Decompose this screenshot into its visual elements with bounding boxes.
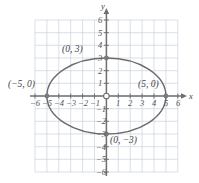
point-label-left: (−5, 0) (8, 80, 35, 90)
x-tick-label--3: −3 (66, 99, 76, 108)
y-tick-label-2: 2 (98, 67, 102, 76)
x-tick-label-4: 4 (152, 99, 156, 108)
y-tick-label--4: −4 (96, 143, 106, 152)
x-tick-label--6: −6 (30, 99, 40, 108)
x-tick-label--4: −4 (54, 99, 64, 108)
x-tick-label--2: −2 (78, 99, 88, 108)
point-label-bottom: (0, −3) (110, 136, 137, 146)
x-tick-label-1: 1 (116, 99, 120, 108)
point-label-top: (0, 3) (62, 45, 83, 55)
x-tick-label--5: −5 (42, 99, 52, 108)
point-top-vertex (104, 56, 109, 61)
y-tick-label-5: 5 (98, 29, 102, 38)
x-tick-label-3: 3 (140, 99, 144, 108)
point-label-right: (5, 0) (138, 80, 159, 90)
x-axis-label: x (189, 92, 193, 101)
ellipse-graph-figure: −6 −5 −4 −3 −2 −1 1 2 3 4 5 6 6 5 4 3 2 … (0, 0, 199, 183)
y-tick-label-3: 3 (98, 54, 102, 63)
y-tick-label-1: 1 (98, 79, 102, 88)
y-tick-label-6: 6 (98, 16, 102, 25)
x-tick-label-5: 5 (164, 99, 168, 108)
y-tick-label--6: −6 (96, 168, 106, 177)
y-axis-label: y (101, 2, 105, 11)
origin-marker (104, 93, 110, 99)
x-tick-label-2: 2 (128, 99, 132, 108)
y-tick-label--1: −1 (96, 105, 106, 114)
y-tick-label-4: 4 (98, 41, 102, 50)
y-tick-label--5: −5 (96, 155, 106, 164)
y-tick-label--2: −2 (96, 117, 106, 126)
y-tick-label--3: −3 (96, 130, 106, 139)
x-tick-label-6: 6 (176, 99, 180, 108)
